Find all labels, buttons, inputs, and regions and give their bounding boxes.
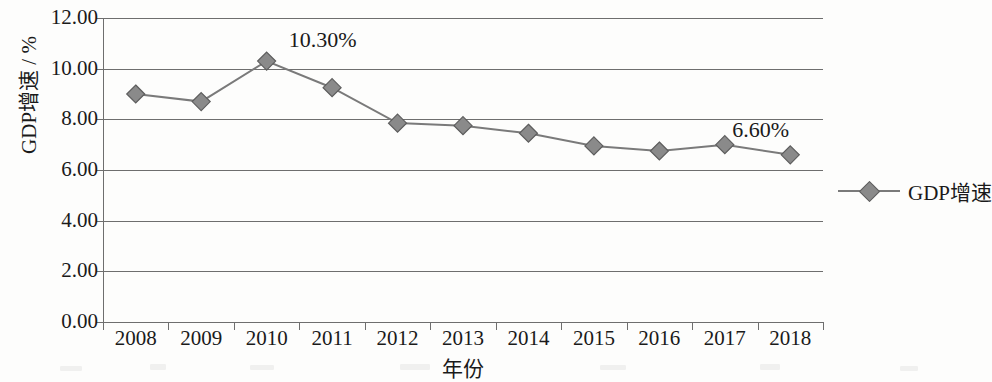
x-tick-label: 2009 <box>168 328 234 349</box>
x-tick-label: 2013 <box>430 328 496 349</box>
y-tick-label: 4.00 <box>18 210 98 231</box>
x-tick-label: 2014 <box>495 328 561 349</box>
x-tick-label: 2016 <box>626 328 692 349</box>
x-tick-label: 2017 <box>692 328 758 349</box>
y-tick-label: 6.00 <box>18 159 98 180</box>
legend-diamond-marker <box>858 180 879 201</box>
data-point-marker[interactable] <box>781 146 799 164</box>
x-axis-title: 年份 <box>0 352 982 382</box>
y-tick-label: 12.00 <box>18 7 98 28</box>
x-tick-label: 2008 <box>103 328 169 349</box>
x-tick-label: 2011 <box>299 328 365 349</box>
data-point-marker[interactable] <box>323 79 341 97</box>
y-tick-label: 10.00 <box>18 58 98 79</box>
y-tick-label: 8.00 <box>18 108 98 129</box>
series-line-gdp-growth <box>136 61 791 155</box>
data-point-marker[interactable] <box>585 137 603 155</box>
data-point-marker[interactable] <box>192 93 210 111</box>
x-tick-label: 2010 <box>234 328 300 349</box>
data-point-marker[interactable] <box>454 117 472 135</box>
y-tick-label: 2.00 <box>18 260 98 281</box>
x-axis-title-text: 年份 <box>442 352 484 382</box>
chart-legend: GDP增速 <box>838 176 992 206</box>
data-label: 6.60% <box>732 119 789 141</box>
data-point-marker[interactable] <box>716 136 734 154</box>
x-tick-label: 2015 <box>561 328 627 349</box>
data-point-marker[interactable] <box>258 52 276 70</box>
data-label: 10.30% <box>289 29 357 51</box>
x-tick-label: 2018 <box>757 328 823 349</box>
data-point-marker[interactable] <box>389 114 407 132</box>
data-point-marker[interactable] <box>127 85 145 103</box>
x-tick-label: 2012 <box>365 328 431 349</box>
data-point-marker[interactable] <box>519 124 537 142</box>
y-tick-label: 0.00 <box>18 311 98 332</box>
legend-label-gdp-growth: GDP增速 <box>908 176 992 206</box>
data-point-marker[interactable] <box>650 142 668 160</box>
legend-line-swatch <box>838 190 900 192</box>
